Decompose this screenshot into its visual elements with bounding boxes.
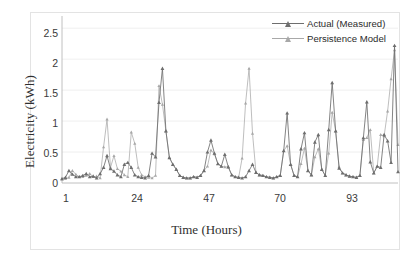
legend-label-persistence: Persistence Model [307, 33, 386, 44]
chart-figure: 2.5 2 1.5 1 0.5 0 1 24 47 70 93 Electric… [0, 0, 413, 265]
x-axis-title: Time (Hours) [0, 222, 413, 238]
y-axis-title: Electricity (kWh) [22, 75, 38, 168]
series-lines [60, 44, 400, 181]
x-tick-24: 24 [122, 192, 152, 204]
y-tick-2: 2 [28, 57, 58, 69]
x-tick-93: 93 [337, 192, 367, 204]
legend-marker-actual-icon [272, 18, 304, 30]
legend-marker-persistence-icon [272, 33, 304, 45]
y-tick-0: 0 [28, 177, 58, 189]
legend-item-persistence[interactable]: Persistence Model [272, 31, 404, 46]
legend-item-actual[interactable]: Actual (Measured) [272, 16, 404, 31]
legend-label-actual: Actual (Measured) [307, 18, 385, 29]
x-tick-47: 47 [194, 192, 224, 204]
x-tick-1: 1 [51, 192, 81, 204]
y-tick-2.5: 2.5 [28, 27, 58, 39]
x-tick-70: 70 [265, 192, 295, 204]
chart-legend: Actual (Measured) Persistence Model [272, 16, 404, 48]
